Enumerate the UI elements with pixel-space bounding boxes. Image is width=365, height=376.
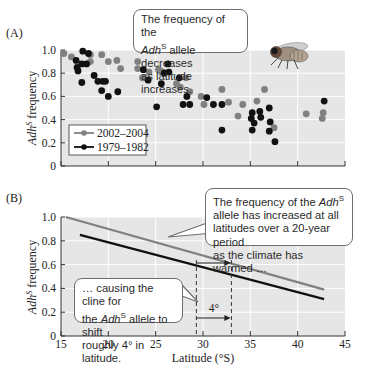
x-tick-label: 15: [55, 338, 67, 350]
y-tick-label: 0: [50, 330, 56, 342]
x-tick-label: 45: [339, 338, 351, 350]
scatter-point: [117, 65, 124, 72]
callout-a-line3: as latitude increases.: [141, 70, 240, 97]
scatter-point: [113, 57, 120, 64]
scatter-point: [261, 86, 268, 93]
scatter-point: [320, 109, 327, 116]
scatter-point: [75, 67, 82, 74]
scatter-point: [83, 61, 90, 68]
scatter-point: [319, 115, 326, 122]
scatter-point: [85, 50, 92, 57]
panel-a-y-axis-title: AdhS frequency: [25, 71, 40, 146]
callout-b-top-line1: The frequency of the AdhS: [213, 192, 345, 209]
allele-name: Adh: [101, 312, 121, 324]
scatter-point: [225, 99, 232, 106]
y-tick-label: 0.8: [42, 235, 57, 247]
callout-b-top-line4: as the climate has warmed …: [213, 249, 345, 276]
scatter-point: [98, 87, 105, 94]
y-tick-label: 0.4: [42, 114, 57, 126]
legend-label-2002-2004: 2002–2004: [97, 127, 149, 139]
scatter-point: [256, 108, 263, 115]
scatter-point: [201, 101, 208, 108]
legend-label-1979-1982: 1979–1982: [97, 141, 149, 153]
callout-b-top-line2: allele has increased at all: [213, 209, 345, 222]
callout-b-bottom-line3: roughly 4° in latitude.: [82, 339, 175, 366]
scatter-point: [105, 93, 112, 100]
scatter-point: [73, 57, 80, 64]
callout-a-line2: AdhS allele decreases: [141, 40, 240, 70]
panel-b-top-callout: The frequency of the AdhS allele has inc…: [205, 188, 353, 246]
y-tick-label: 0: [50, 160, 56, 172]
legend-marker-gray-icon: [81, 130, 87, 136]
allele-sup: S: [339, 194, 344, 203]
panel-a-legend: 2002–2004 1979–1982: [69, 125, 149, 155]
y-tick-label: 0.8: [42, 67, 57, 79]
scatter-point: [249, 127, 256, 134]
callout-b-top-prefix: The frequency of the: [213, 196, 319, 208]
scatter-point: [98, 51, 105, 58]
scatter-point: [254, 98, 261, 105]
scatter-point: [219, 101, 226, 108]
y-tick-label: 0.6: [42, 259, 57, 271]
legend-marker-black-icon: [81, 144, 87, 150]
y-tick-label: 0.4: [42, 282, 57, 294]
allele-name: Adh: [319, 196, 339, 208]
callout-b-bottom-line1: … causing the cline for: [82, 282, 175, 309]
scatter-point: [153, 103, 160, 110]
scatter-point: [249, 109, 256, 116]
x-tick-label: 40: [292, 338, 304, 350]
scatter-point: [186, 101, 193, 108]
panel-b-x-axis-title: Latitude (°S): [172, 351, 234, 365]
scatter-point: [239, 101, 246, 108]
prefix: the: [82, 312, 101, 324]
scatter-point: [102, 78, 109, 85]
scatter-point: [180, 101, 187, 108]
scatter-point: [321, 98, 328, 105]
panel-b-bottom-callout: … causing the cline for the AdhS allele …: [74, 278, 183, 323]
callout-a-line1: The frequency of the: [141, 13, 240, 40]
scatter-point: [114, 88, 121, 95]
callout-b-top-line3: latitudes over a 20-year period: [213, 222, 345, 249]
scatter-point: [251, 120, 258, 127]
scatter-point: [91, 72, 98, 79]
y-tick-label: 1.0: [42, 44, 57, 56]
scatter-point: [78, 79, 85, 86]
panel-b-y-axis-title: AdhS frequency: [25, 240, 40, 315]
scatter-point: [266, 105, 273, 112]
y-tick-label: 0.6: [42, 90, 57, 102]
scatter-point: [267, 119, 274, 126]
scatter-point: [235, 113, 242, 120]
scatter-point: [266, 128, 273, 135]
x-tick-label: 30: [197, 338, 209, 350]
callout-b-bottom-line2: the AdhS allele to shift: [82, 309, 175, 339]
panel-a-callout: The frequency of the AdhS allele decreas…: [133, 9, 248, 53]
y-tick-label: 0.2: [42, 137, 57, 149]
scatter-point: [272, 138, 279, 145]
scatter-point: [210, 101, 217, 108]
scatter-point: [105, 58, 112, 65]
scatter-point: [219, 127, 226, 134]
scatter-point: [257, 114, 264, 121]
scatter-point: [60, 50, 67, 57]
scatter-point: [303, 110, 310, 117]
allele-name: Adh: [141, 43, 161, 55]
y-tick-label: 0.2: [42, 306, 57, 318]
y-tick-label: 1.0: [42, 211, 57, 223]
x-tick-label: 35: [245, 338, 257, 350]
shift-label: 4°: [209, 302, 220, 314]
